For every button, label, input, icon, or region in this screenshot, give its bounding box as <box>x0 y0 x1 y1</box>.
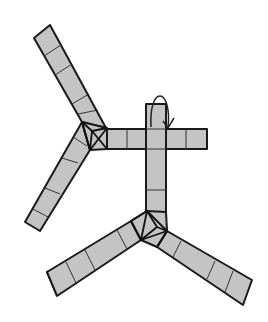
folding-net-diagram <box>0 0 268 322</box>
vertical-bar <box>146 104 166 212</box>
lower-right-arm <box>157 231 252 305</box>
middle-left-arm <box>25 122 90 231</box>
upper-left-arm <box>34 25 106 128</box>
